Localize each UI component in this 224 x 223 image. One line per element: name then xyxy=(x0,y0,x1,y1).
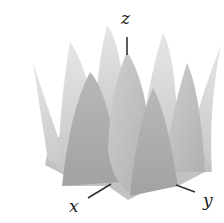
x-axis-line xyxy=(88,184,111,198)
y-axis-line xyxy=(176,185,195,192)
y-axis-label: y xyxy=(202,190,213,210)
z-axis-label: z xyxy=(120,8,131,28)
x-axis-label: x xyxy=(69,196,79,216)
surface-plot: z x y xyxy=(0,0,224,223)
